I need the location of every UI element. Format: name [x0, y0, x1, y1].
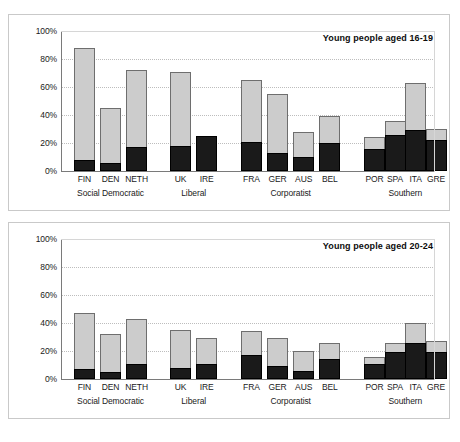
- bar-sub-SPA: [385, 352, 406, 379]
- y-axis-tick-40%: 40%: [40, 110, 57, 120]
- bar-sub-FIN: [74, 160, 95, 171]
- bar-sub-GER: [267, 366, 288, 379]
- bar-sub-ITA: [405, 343, 426, 379]
- y-axis-tick-60%: 60%: [40, 82, 57, 92]
- bar-sub-IRE: [196, 136, 217, 171]
- group-label-southern: Southern: [388, 396, 422, 406]
- x-axis-label-SPA: SPA: [387, 382, 403, 392]
- group-label-liberal: Liberal: [181, 396, 206, 406]
- bar-column: DEN: [100, 31, 121, 171]
- x-axis-label-GRE: GRE: [427, 382, 445, 392]
- y-axis-tick-100%: 100%: [36, 26, 57, 36]
- group-label-social-democratic: Social Democratic: [77, 396, 144, 406]
- x-axis-label-AUS: AUS: [295, 382, 312, 392]
- group-label-corporatist: Corporatist: [270, 188, 310, 198]
- x-axis-label-POR: POR: [366, 382, 384, 392]
- bar-sub-UK: [170, 146, 191, 171]
- grid-and-bars-20-24: 100%80%60%40%20%0%FINDENNETHUKIREFRAGERA…: [62, 239, 435, 379]
- plot-area-20-24: 100%80%60%40%20%0%FINDENNETHUKIREFRAGERA…: [61, 239, 435, 380]
- bar-sub-DEN: [100, 163, 121, 171]
- y-axis-tick-0%: 0%: [45, 166, 57, 176]
- x-axis-label-NETH: NETH: [125, 174, 148, 184]
- bar-sub-UK: [170, 368, 191, 379]
- bar-column: IRE: [196, 239, 217, 379]
- x-axis-label-DEN: DEN: [102, 382, 120, 392]
- bar-column: IRE: [196, 31, 217, 171]
- bar-sub-DEN: [100, 372, 121, 379]
- bar-total-DEN: [100, 108, 121, 171]
- x-axis-label-BEL: BEL: [322, 382, 338, 392]
- bar-sub-POR: [364, 149, 385, 171]
- y-axis-tick-100%: 100%: [36, 234, 57, 244]
- grid-and-bars-16-19: 100%80%60%40%20%0%FINDENNETHUKIREFRAGERA…: [62, 31, 435, 171]
- x-axis-label-NETH: NETH: [125, 382, 148, 392]
- bar-column: FIN: [74, 239, 95, 379]
- x-axis-label-FIN: FIN: [78, 174, 91, 184]
- x-axis-label-FRA: FRA: [243, 382, 260, 392]
- y-axis-tick-80%: 80%: [40, 54, 57, 64]
- bar-column: DEN: [100, 239, 121, 379]
- bar-column: FIN: [74, 31, 95, 171]
- x-axis-label-BEL: BEL: [322, 174, 338, 184]
- x-axis-label-FRA: FRA: [243, 174, 260, 184]
- y-axis-tick-40%: 40%: [40, 318, 57, 328]
- bar-column: SPA: [385, 31, 406, 171]
- bar-sub-GRE: [426, 352, 447, 379]
- x-axis-label-DEN: DEN: [102, 174, 120, 184]
- x-axis-label-GER: GER: [269, 174, 287, 184]
- bar-column: NETH: [126, 239, 147, 379]
- bar-column: BEL: [319, 239, 340, 379]
- x-axis-label-UK: UK: [175, 382, 187, 392]
- figure-canvas: Young people aged 16-19 100%80%60%40%20%…: [0, 0, 460, 442]
- y-axis-tick-20%: 20%: [40, 138, 57, 148]
- bar-column: NETH: [126, 31, 147, 171]
- bar-sub-NETH: [126, 147, 147, 171]
- bar-column: FRA: [241, 31, 262, 171]
- x-axis-label-ITA: ITA: [409, 174, 421, 184]
- bar-column: POR: [364, 239, 385, 379]
- y-axis-tick-20%: 20%: [40, 346, 57, 356]
- bar-column: ITA: [405, 31, 426, 171]
- chart-panel-16-19: Young people aged 16-19 100%80%60%40%20%…: [8, 14, 450, 211]
- group-label-liberal: Liberal: [181, 188, 206, 198]
- x-axis-label-IRE: IRE: [200, 382, 214, 392]
- bar-sub-AUS: [293, 371, 314, 379]
- y-axis-tick-0%: 0%: [45, 374, 57, 384]
- bar-column: AUS: [293, 239, 314, 379]
- bar-sub-BEL: [319, 143, 340, 171]
- bar-column: GRE: [426, 239, 447, 379]
- plot-area-16-19: 100%80%60%40%20%0%FINDENNETHUKIREFRAGERA…: [61, 31, 435, 172]
- bar-total-FIN: [74, 48, 95, 171]
- bar-column: SPA: [385, 239, 406, 379]
- bar-column: GER: [267, 239, 288, 379]
- bar-sub-POR: [364, 364, 385, 379]
- bar-sub-FRA: [241, 142, 262, 171]
- bar-column: FRA: [241, 239, 262, 379]
- bar-column: GER: [267, 31, 288, 171]
- x-axis-label-POR: POR: [366, 174, 384, 184]
- x-axis-label-UK: UK: [175, 174, 187, 184]
- bar-column: UK: [170, 31, 191, 171]
- bar-sub-GRE: [426, 140, 447, 171]
- group-label-southern: Southern: [388, 188, 422, 198]
- bar-sub-FIN: [74, 369, 95, 379]
- bar-column: GRE: [426, 31, 447, 171]
- bar-column: BEL: [319, 31, 340, 171]
- y-axis-tick-80%: 80%: [40, 262, 57, 272]
- x-axis-label-IRE: IRE: [200, 174, 214, 184]
- bar-sub-GER: [267, 153, 288, 171]
- x-axis-label-GER: GER: [269, 382, 287, 392]
- bar-column: UK: [170, 239, 191, 379]
- x-axis-label-ITA: ITA: [409, 382, 421, 392]
- x-axis-label-SPA: SPA: [387, 174, 403, 184]
- bar-column: POR: [364, 31, 385, 171]
- bar-sub-IRE: [196, 364, 217, 379]
- x-axis-label-AUS: AUS: [295, 174, 312, 184]
- x-axis-label-GRE: GRE: [427, 174, 445, 184]
- chart-panel-20-24: Young people aged 20-24 100%80%60%40%20%…: [8, 222, 450, 419]
- group-label-corporatist: Corporatist: [270, 396, 310, 406]
- bar-sub-FRA: [241, 355, 262, 379]
- bar-sub-NETH: [126, 364, 147, 379]
- x-axis-label-FIN: FIN: [78, 382, 91, 392]
- bar-sub-ITA: [405, 130, 426, 171]
